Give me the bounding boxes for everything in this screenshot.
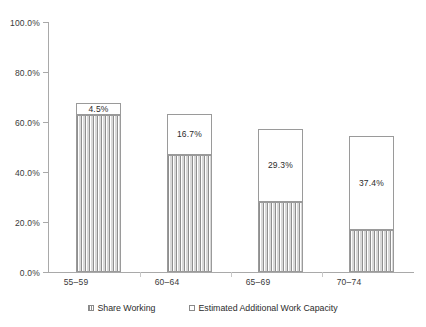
bar-label-capacity: 29.3% bbox=[258, 160, 303, 170]
y-axis-label-20: 20.0% bbox=[0, 218, 40, 228]
bar-segment-share-working[interactable] bbox=[167, 155, 212, 272]
legend-swatch-hatched-icon bbox=[88, 305, 94, 311]
legend-item-additional-capacity[interactable]: Estimated Additional Work Capacity bbox=[189, 303, 337, 313]
bar-label-capacity: 4.5% bbox=[76, 104, 121, 114]
chart-legend: Share Working Estimated Additional Work … bbox=[0, 303, 426, 313]
x-axis-category-60-64: 60–64 bbox=[132, 277, 202, 287]
legend-item-share-working[interactable]: Share Working bbox=[88, 303, 155, 313]
bar-segment-share-working[interactable] bbox=[258, 202, 303, 272]
legend-label-share-working: Share Working bbox=[97, 303, 155, 313]
y-axis-label-60: 60.0% bbox=[0, 118, 40, 128]
bar-label-capacity: 37.4% bbox=[349, 178, 394, 188]
y-axis-label-40: 40.0% bbox=[0, 168, 40, 178]
bar-segment-share-working[interactable] bbox=[76, 115, 121, 273]
x-axis-category-65-69: 65–69 bbox=[223, 277, 293, 287]
stacked-bar-chart: 100.0% 80.0% 60.0% 40.0% 20.0% 0.0% 4.5%… bbox=[0, 0, 426, 327]
legend-label-additional-capacity: Estimated Additional Work Capacity bbox=[198, 303, 337, 313]
x-axis-category-70-74: 70–74 bbox=[314, 277, 384, 287]
legend-swatch-white-icon bbox=[189, 305, 195, 311]
bar-label-capacity: 16.7% bbox=[167, 129, 212, 139]
x-axis-category-55-59: 55–59 bbox=[41, 277, 111, 287]
y-axis-label-100: 100.0% bbox=[0, 18, 40, 28]
bar-segment-share-working[interactable] bbox=[349, 230, 394, 273]
y-axis-label-0: 0.0% bbox=[0, 268, 40, 278]
plot-area: 4.5% 16.7% 29.3% 37.4% bbox=[48, 22, 413, 272]
y-axis-label-80: 80.0% bbox=[0, 68, 40, 78]
